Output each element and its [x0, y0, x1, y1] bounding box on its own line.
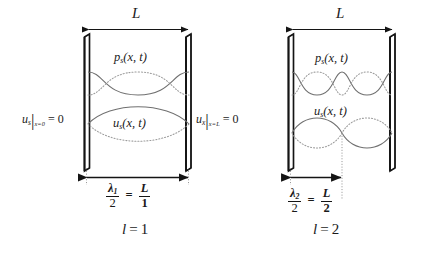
halfwavelength-equals-1: = — [123, 188, 136, 202]
length-fraction-2: L 2 — [321, 187, 333, 215]
pressure-args-1: (x, t) — [123, 50, 147, 64]
length-fraction-1: L 1 — [139, 182, 151, 210]
halfwavelength-fraction-1: λ1 2 — [106, 182, 119, 210]
length-numerator-1: L — [139, 182, 151, 196]
halfwavelength-numerator-2: λ2 — [288, 187, 301, 202]
bc-right-bar-subscript: x=L — [209, 120, 220, 127]
displacement-args-1: (x, t) — [122, 116, 146, 130]
mode-caption-2: l=2 — [313, 221, 339, 238]
halfwavelength-equation-1: λ1 2 = L 1 — [106, 182, 150, 210]
left-wall-1 — [85, 34, 90, 171]
standing-wave-figure — [0, 0, 423, 255]
length-label-2: L — [336, 5, 344, 22]
mode-caption-equals-2: = — [317, 221, 331, 237]
displacement-wave-label-1: us(x, t) — [113, 116, 146, 131]
halfwavelength-numerator-1: λ1 — [106, 182, 119, 197]
lambda-subscript-2: 2 — [296, 192, 300, 201]
mode-caption-1: l=1 — [122, 221, 148, 238]
halfwavelength-fraction-2: λ2 2 — [288, 187, 301, 215]
boundary-condition-right: ux|x=L= 0 — [196, 112, 242, 127]
pressure-wave-label-1: ps(x, t) — [114, 50, 147, 65]
length-denominator-2: 2 — [321, 202, 333, 215]
boundary-condition-left: us|x=0= 0 — [22, 112, 67, 127]
pressure-wave-curve-1 — [88, 72, 189, 95]
pressure-wave-curve-2 — [292, 72, 392, 95]
lambda-subscript-1: 1 — [114, 187, 118, 196]
length-label-1: L — [132, 5, 140, 22]
displacement-args-2: (x, t) — [323, 104, 347, 118]
bc-right-equals: = 0 — [220, 112, 242, 126]
length-denominator-1: 1 — [139, 197, 151, 210]
mode-caption-value-2: 2 — [332, 221, 340, 237]
mode-caption-value-1: 1 — [141, 221, 149, 237]
right-wall-2 — [390, 34, 395, 171]
length-numerator-2: L — [321, 187, 333, 201]
bc-left-bar-subscript: x=0 — [34, 120, 45, 127]
halfwavelength-equals-2: = — [305, 193, 318, 207]
halfwavelength-denominator-1: 2 — [106, 197, 119, 210]
pressure-args-2: (x, t) — [324, 51, 348, 65]
displacement-wave-label-2: us(x, t) — [314, 104, 347, 119]
left-wall-2 — [289, 34, 294, 171]
right-wall-1 — [186, 34, 191, 171]
bc-left-equals: = 0 — [45, 112, 67, 126]
pressure-wave-label-2: ps(x, t) — [315, 51, 348, 66]
halfwavelength-denominator-2: 2 — [288, 202, 301, 215]
halfwavelength-equation-2: λ2 2 = L 2 — [288, 187, 332, 215]
mode-caption-equals-1: = — [126, 221, 140, 237]
